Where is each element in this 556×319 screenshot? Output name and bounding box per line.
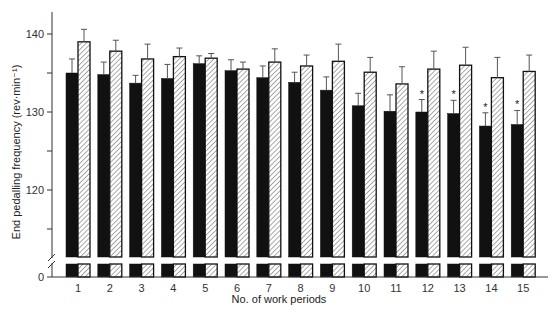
y-axis-title: End pedalling frequency (rev·min⁻¹) [10,65,22,240]
x-tick-label: 11 [390,282,401,294]
y-tick-label: 140 [26,28,44,40]
significance-marker: * [483,101,488,113]
bar-15-hatched [523,55,535,277]
x-tick-label: 1 [75,282,81,294]
x-tick-label: 12 [422,282,434,294]
bar-12-hatched [428,51,440,277]
bar-3-hatched [142,44,154,277]
bar-10-hatched [364,57,376,277]
bar-13-hatched [460,47,472,277]
x-tick-label: 13 [453,282,465,294]
bar-9-hatched [332,44,344,277]
significance-marker: * [515,98,520,110]
x-tick-label: 2 [107,282,113,294]
bar-6-hatched [237,62,249,277]
bar-5-solid [193,56,205,277]
bar-11-hatched [396,67,408,277]
significance-marker: * [451,88,456,100]
y-tick-label: 0 [38,271,44,283]
bar-1-solid [66,59,78,277]
bar-14-solid [479,113,491,277]
bar-12-solid [416,100,428,277]
bar-chart: 123456789101112131415****0120130140 End … [0,0,556,319]
bar-2-solid [98,62,110,277]
bar-10-solid [352,93,364,277]
bar-13-solid [448,100,460,277]
bar-1-hatched [78,29,90,277]
y-tick-label: 120 [26,184,44,196]
bar-8-hatched [301,55,313,277]
x-tick-label: 9 [329,282,335,294]
bar-4-hatched [173,48,185,277]
x-tick-label: 14 [485,282,497,294]
bar-2-hatched [110,40,122,277]
x-tick-label: 5 [202,282,208,294]
bar-9-solid [320,77,332,277]
bar-6-solid [225,60,237,277]
bar-11-solid [384,95,396,277]
y-tick-label: 130 [26,106,44,118]
bar-7-solid [257,66,269,277]
bar-5-hatched [205,54,217,278]
bar-4-solid [161,64,173,277]
significance-marker: * [420,88,425,100]
x-tick-label: 3 [139,282,145,294]
bars-layer [66,29,535,277]
bar-8-solid [289,72,301,277]
bar-7-hatched [269,49,281,277]
bar-14-hatched [491,57,503,277]
x-tick-label: 10 [358,282,370,294]
bar-3-solid [130,75,142,277]
x-tick-label: 15 [517,282,529,294]
x-tick-label: 4 [170,282,176,294]
bar-15-solid [511,110,523,277]
x-axis-title: No. of work periods [232,293,327,305]
